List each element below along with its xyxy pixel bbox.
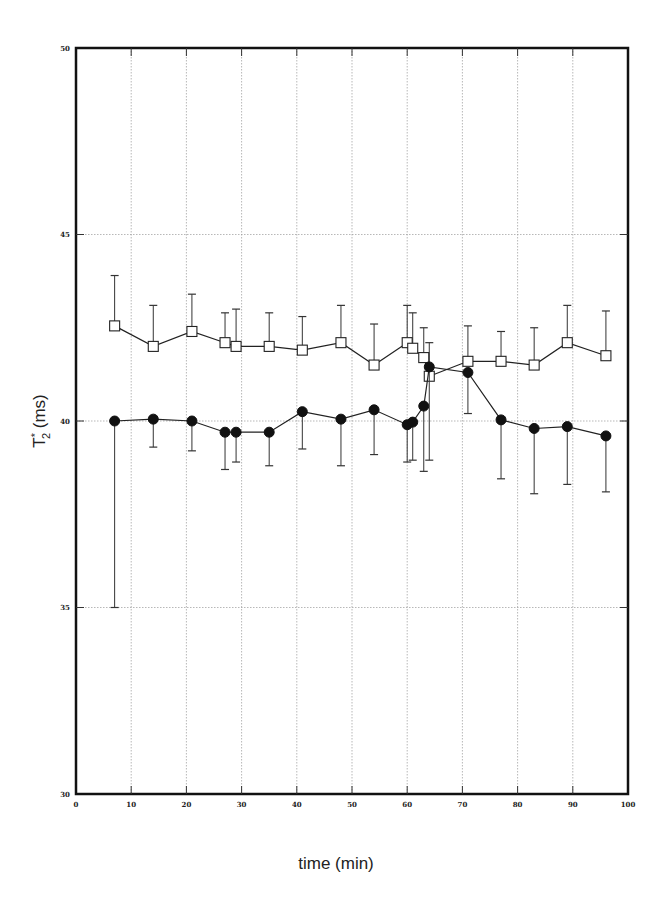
y-label-unit: (ms) [30, 394, 49, 428]
data-point-circle [463, 368, 473, 378]
svg-text:T*2 (ms): T*2 (ms) [29, 394, 52, 448]
data-point-square [369, 360, 379, 370]
data-point-square [187, 326, 197, 336]
data-point-circle [336, 414, 346, 424]
series-circle-filled [110, 362, 611, 608]
y-tick-label: 45 [60, 230, 70, 239]
data-point-circle [529, 423, 539, 433]
data-point-circle [148, 414, 158, 424]
series-square-open [110, 276, 611, 382]
data-point-circle [231, 427, 241, 437]
data-point-square [336, 338, 346, 348]
y-tick-label: 40 [60, 417, 70, 426]
x-axis-ticks: 0102030405060708090100 [74, 48, 636, 809]
x-tick-label: 80 [513, 800, 523, 809]
x-tick-label: 30 [237, 800, 247, 809]
x-tick-label: 60 [402, 800, 412, 809]
data-point-circle [408, 417, 418, 427]
x-tick-label: 50 [347, 800, 357, 809]
data-point-square [148, 341, 158, 351]
data-point-square [110, 321, 120, 331]
data-point-circle [110, 416, 120, 426]
y-tick-label: 35 [60, 603, 70, 612]
data-point-circle [496, 415, 506, 425]
data-point-circle [419, 401, 429, 411]
data-point-circle [601, 431, 611, 441]
data-point-square [419, 353, 429, 363]
data-point-square [297, 345, 307, 355]
data-point-square [220, 338, 230, 348]
x-tick-label: 100 [621, 800, 636, 809]
chart: 0102030405060708090100 3035404550 time (… [0, 0, 664, 901]
data-point-square [231, 341, 241, 351]
data-point-square [496, 356, 506, 366]
y-axis-label: T*2 (ms) [29, 394, 52, 448]
data-point-square [562, 338, 572, 348]
data-point-circle [297, 407, 307, 417]
x-tick-label: 70 [458, 800, 468, 809]
data-point-circle [187, 416, 197, 426]
data-point-circle [562, 422, 572, 432]
y-tick-label: 50 [60, 44, 70, 53]
x-tick-label: 90 [568, 800, 578, 809]
data-point-square [463, 356, 473, 366]
data-point-circle [220, 427, 230, 437]
data-point-circle [264, 427, 274, 437]
x-tick-label: 20 [182, 800, 192, 809]
y-tick-label: 30 [60, 790, 70, 799]
x-tick-label: 0 [74, 800, 79, 809]
data-point-square [529, 360, 539, 370]
data-point-square [408, 343, 418, 353]
grid-lines [76, 48, 628, 794]
x-tick-label: 10 [126, 800, 136, 809]
x-axis-label: time (min) [298, 854, 374, 873]
x-tick-label: 40 [292, 800, 302, 809]
data-point-circle [424, 362, 434, 372]
data-point-square [601, 351, 611, 361]
data-point-square [264, 341, 274, 351]
data-point-circle [369, 405, 379, 415]
data-series [110, 276, 611, 608]
